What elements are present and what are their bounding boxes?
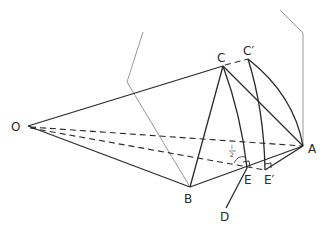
- label-E-prime: E′: [264, 173, 275, 187]
- dashed-OE-prime: [30, 128, 265, 170]
- label-A: A: [308, 142, 317, 156]
- grey-plane-line-left: [127, 32, 190, 187]
- label-C: C: [217, 51, 225, 65]
- label-O: O: [11, 120, 20, 134]
- label-C-prime: C′: [243, 44, 254, 58]
- edge-BC: [190, 66, 223, 187]
- arc-C-prime-A: [248, 59, 303, 146]
- angle-label-numerator: i: [231, 143, 233, 150]
- angle-label-denominator: 2: [230, 151, 234, 158]
- geometric-diagram: i 2 O C C′ A B E E′ D: [0, 0, 323, 232]
- label-B: B: [184, 192, 192, 206]
- edge-OC: [28, 66, 223, 126]
- label-E: E: [244, 173, 252, 187]
- dashed-CC-prime: [225, 59, 248, 65]
- edge-OB: [28, 126, 190, 187]
- arc-CE: [223, 66, 247, 168]
- label-D: D: [220, 210, 229, 224]
- arc-C-prime-E-prime: [248, 59, 265, 170]
